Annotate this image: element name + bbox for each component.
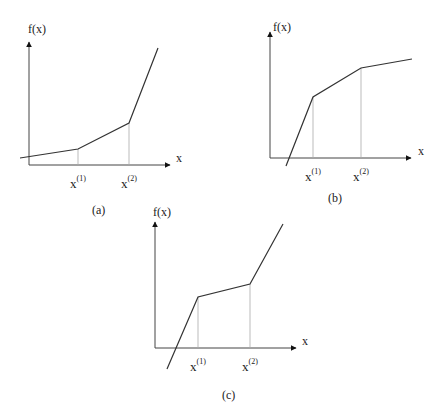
- breakpoint-2-label: x(2): [242, 357, 258, 374]
- y-axis-label: f(x): [28, 22, 46, 36]
- panel-a: f(x) x x(1) x(2) (a): [20, 22, 182, 217]
- panel-b: f(x) x x(1) x(2) (b): [270, 20, 424, 205]
- x-axis-label: x: [176, 151, 182, 165]
- breakpoint-2-label: x(2): [353, 167, 369, 184]
- x-axis-label: x: [418, 144, 424, 158]
- breakpoint-1-label: x(1): [305, 167, 321, 184]
- panel-caption: (a): [92, 203, 105, 217]
- panel-c: f(x) x x(1) x(2) (c): [153, 205, 308, 402]
- function-curve: [167, 224, 283, 369]
- panel-caption: (c): [222, 388, 235, 402]
- diagram-canvas: f(x) x x(1) x(2) (a) f(x) x x(1) x(2) (b…: [0, 0, 439, 416]
- panel-caption: (b): [328, 191, 342, 205]
- x-axis-label: x: [302, 334, 308, 348]
- breakpoint-1-label: x(1): [190, 357, 206, 374]
- function-curve: [20, 48, 158, 158]
- y-axis-label: f(x): [153, 205, 171, 219]
- function-curve: [286, 59, 412, 166]
- y-axis-label: f(x): [273, 20, 291, 34]
- breakpoint-2-label: x(2): [121, 174, 137, 191]
- breakpoint-1-label: x(1): [70, 174, 86, 191]
